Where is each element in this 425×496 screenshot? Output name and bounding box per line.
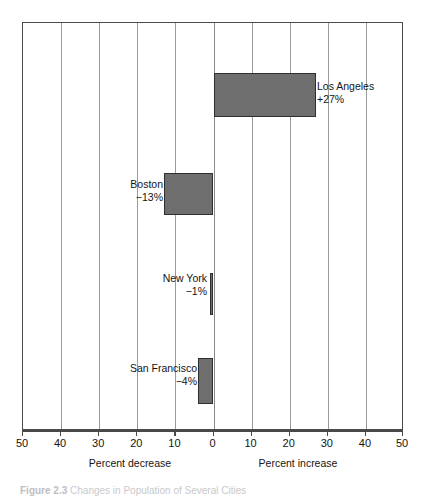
x-tick-0 <box>213 430 214 436</box>
figure-population-change: Los Angeles +27% Boston −13% New York −1… <box>0 0 425 496</box>
x-tick--40 <box>60 430 61 436</box>
x-tick-40 <box>365 430 366 436</box>
x-tick--10 <box>174 430 175 436</box>
x-tick-label--30: 30 <box>92 437 104 449</box>
bar-label-los-angeles-name: Los Angeles <box>317 80 374 93</box>
x-tick--30 <box>98 430 99 436</box>
x-tick--20 <box>136 430 137 436</box>
x-tick-label--20: 20 <box>130 437 142 449</box>
figure-caption: Figure 2.3 Changes in Population of Seve… <box>20 484 410 496</box>
x-tick-label-0: 0 <box>209 437 215 449</box>
x-tick-20 <box>289 430 290 436</box>
bar-label-boston-value: −13% <box>130 191 163 204</box>
figure-caption-number: Figure 2.3 <box>20 485 67 496</box>
x-tick-10 <box>251 430 252 436</box>
x-tick-label-10: 10 <box>244 437 256 449</box>
axis-caption-percent-decrease: Percent decrease <box>89 457 171 469</box>
bar-label-san-francisco-value: −4% <box>130 375 197 388</box>
bar-san-francisco <box>198 358 213 404</box>
bar-label-san-francisco: San Francisco −4% <box>130 362 197 387</box>
x-tick-label--10: 10 <box>168 437 180 449</box>
bar-label-boston: Boston −13% <box>130 178 163 203</box>
bar-label-new-york-value: −1% <box>163 285 207 298</box>
x-tick-label--40: 40 <box>54 437 66 449</box>
x-tick-label-50: 50 <box>396 437 408 449</box>
bar-label-new-york-name: New York <box>163 272 207 285</box>
axis-caption-percent-increase: Percent increase <box>259 457 338 469</box>
gridline--30 <box>99 23 100 429</box>
gridline--40 <box>61 23 62 429</box>
x-tick-30 <box>327 430 328 436</box>
bar-label-boston-name: Boston <box>130 178 163 191</box>
x-tick-label-20: 20 <box>283 437 295 449</box>
figure-caption-text: Changes in Population of Several Cities <box>70 485 246 496</box>
bar-label-los-angeles: Los Angeles +27% <box>317 80 374 105</box>
x-tick-label-40: 40 <box>359 437 371 449</box>
bar-los-angeles <box>214 73 317 117</box>
bar-new-york <box>210 273 214 315</box>
bar-label-los-angeles-value: +27% <box>317 93 374 106</box>
x-tick--50 <box>22 430 23 436</box>
x-tick-label--50: 50 <box>16 437 28 449</box>
x-tick-label-30: 30 <box>321 437 333 449</box>
bar-label-new-york: New York −1% <box>163 272 207 297</box>
bar-boston <box>164 173 214 215</box>
x-tick-50 <box>402 430 403 436</box>
bar-label-san-francisco-name: San Francisco <box>130 362 197 375</box>
